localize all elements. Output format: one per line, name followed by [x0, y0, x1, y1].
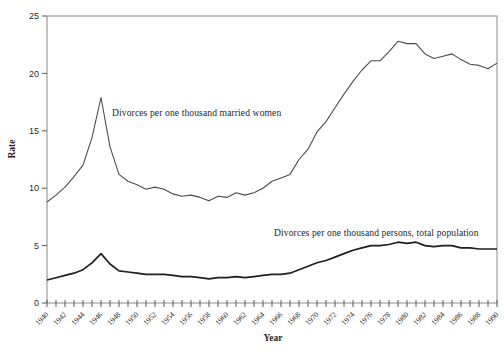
x-tick-label: 1956	[177, 310, 194, 327]
x-tick-label: 1958	[195, 310, 212, 327]
x-tick-label: 1944	[69, 310, 86, 327]
x-tick-label: 1964	[249, 310, 266, 327]
x-tick-label: 1960	[213, 310, 230, 327]
married-women-series-label: Divorces per one thousand married women	[112, 107, 281, 118]
x-tick-label: 1984	[429, 310, 446, 327]
x-tick-label: 1946	[87, 310, 104, 327]
y-tick-label: 25	[29, 11, 39, 21]
x-tick-label: 1948	[105, 310, 122, 327]
x-tick-label: 1976	[357, 310, 374, 327]
x-tick-label: 1972	[321, 310, 338, 327]
total-population-line	[47, 242, 497, 280]
x-tick-label: 1980	[393, 310, 410, 327]
x-tick-label: 1950	[123, 310, 140, 327]
x-tick-label: 1986	[447, 310, 464, 327]
x-tick-label: 1966	[267, 310, 284, 327]
x-tick-label: 1968	[285, 310, 302, 327]
y-axis-title: Rate	[7, 128, 17, 170]
total-population-series-label: Divorces per one thousand persons, total…	[274, 227, 479, 238]
x-tick-label: 1988	[465, 310, 482, 327]
y-tick-label: 5	[34, 241, 39, 251]
x-tick-label: 1940	[33, 310, 50, 327]
x-tick-label: 1942	[51, 310, 68, 327]
x-tick-label: 1962	[231, 310, 248, 327]
x-tick-label: 1952	[141, 310, 158, 327]
x-tick-label: 1982	[411, 310, 428, 327]
x-axis-title: Year	[246, 333, 300, 343]
y-tick-label: 15	[29, 126, 39, 136]
divorce-rate-figure: 0510152025194019421944194619481950195219…	[0, 0, 504, 354]
married-women-line	[47, 41, 497, 202]
x-tick-label: 1970	[303, 310, 320, 327]
y-tick-label: 20	[29, 69, 39, 79]
x-tick-label: 1974	[339, 310, 356, 327]
x-tick-label: 1954	[159, 310, 176, 327]
x-tick-label: 1978	[375, 310, 392, 327]
y-tick-label: 10	[29, 183, 39, 193]
y-tick-label: 0	[34, 298, 39, 308]
x-tick-label: 1990	[483, 310, 500, 327]
line-chart-canvas: 0510152025194019421944194619481950195219…	[0, 0, 504, 354]
